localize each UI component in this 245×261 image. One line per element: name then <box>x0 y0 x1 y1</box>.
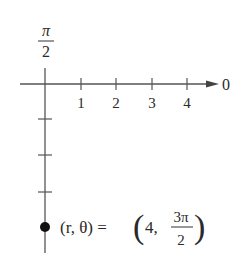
tick-label-2: 2 <box>112 95 120 111</box>
tick-label-1: 1 <box>77 95 85 111</box>
angle-label-pi-over-2-den: 2 <box>42 43 50 60</box>
close-paren: ) <box>194 208 205 246</box>
tick-label-4: 4 <box>183 95 191 111</box>
angle-label-pi-over-2-num: π <box>42 22 51 39</box>
arrow-right-icon <box>206 81 219 88</box>
tick-label-3: 3 <box>148 95 156 111</box>
polar-diagram: 1 2 3 4 0 π 2 (r, θ) = ( 4, 3π 2 ) <box>0 0 245 261</box>
point-label-theta-den: 2 <box>177 232 185 248</box>
point-label-lhs: (r, θ) = <box>60 218 107 237</box>
point-label-r: 4, <box>145 218 158 237</box>
point-label-theta-num: 3π <box>173 209 189 225</box>
polar-point <box>40 222 50 232</box>
angle-label-zero: 0 <box>222 76 230 93</box>
open-paren: ( <box>133 208 144 246</box>
